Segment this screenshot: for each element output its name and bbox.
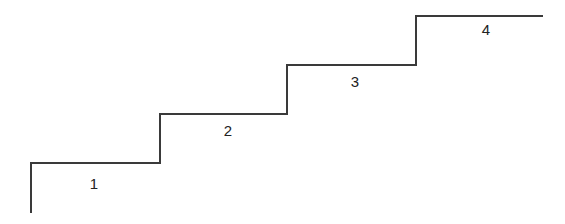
step-label-2: 2 [224,123,232,138]
staircase-outline [0,0,565,224]
step-label-4: 4 [482,22,490,37]
staircase-diagram: 1 2 3 4 [0,0,565,224]
staircase-line [31,16,543,213]
step-label-1: 1 [90,176,98,191]
step-label-3: 3 [351,74,359,89]
